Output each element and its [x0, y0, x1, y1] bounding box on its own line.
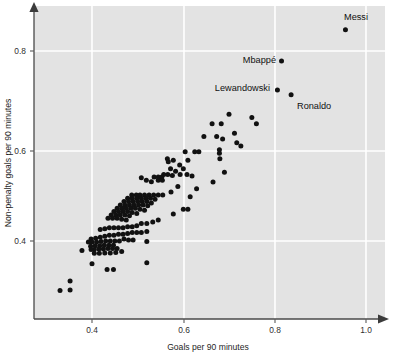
- data-point: [139, 175, 144, 180]
- data-point: [144, 239, 149, 244]
- data-point: [144, 229, 149, 234]
- y-axis-title: Non-penalty goals per 90 minutes: [3, 99, 13, 228]
- data-point: [110, 216, 115, 221]
- data-point: [156, 218, 161, 223]
- data-point: [103, 239, 108, 244]
- data-point: [102, 234, 107, 239]
- data-point: [219, 121, 224, 126]
- data-point: [111, 225, 116, 230]
- data-point: [194, 186, 199, 191]
- data-point: [137, 207, 142, 212]
- data-point: [107, 233, 112, 238]
- data-point: [201, 134, 206, 139]
- data-point: [275, 87, 280, 92]
- data-point: [210, 121, 215, 126]
- data-point: [105, 216, 110, 221]
- data-point: [116, 232, 121, 237]
- xtick-label-2: 0.8: [269, 325, 281, 335]
- data-point: [178, 172, 183, 177]
- point-label-mbappe: Mbappé: [243, 55, 276, 65]
- data-point: [107, 225, 112, 230]
- data-point: [133, 206, 138, 211]
- data-point: [97, 251, 102, 256]
- data-point: [122, 212, 127, 217]
- data-point: [156, 192, 161, 197]
- data-point: [124, 218, 129, 223]
- data-point: [139, 230, 144, 235]
- plot-background: [34, 6, 385, 319]
- point-label-messi: Messi: [344, 12, 368, 22]
- data-point: [68, 278, 73, 283]
- data-point: [169, 190, 174, 195]
- data-point: [113, 250, 118, 255]
- data-point: [111, 267, 116, 272]
- ytick-label-2: 0.8: [14, 46, 26, 56]
- data-point: [119, 249, 124, 254]
- data-point: [142, 208, 147, 213]
- x-axis-title: Goals per 90 minutes: [167, 342, 249, 352]
- data-point: [125, 231, 130, 236]
- data-point: [102, 250, 107, 255]
- data-point: [165, 172, 170, 177]
- data-point: [150, 220, 155, 225]
- data-point: [232, 131, 237, 136]
- data-point: [166, 159, 171, 164]
- data-point: [249, 115, 254, 120]
- data-point: [134, 211, 139, 216]
- data-point: [160, 192, 165, 197]
- data-point: [144, 178, 149, 183]
- data-point: [254, 121, 259, 126]
- point-label-ronaldo: Ronaldo: [297, 101, 331, 111]
- data-point: [105, 267, 110, 272]
- data-point: [149, 179, 154, 184]
- data-point: [196, 149, 201, 154]
- data-point: [153, 197, 158, 202]
- data-point: [141, 202, 146, 207]
- data-point: [68, 287, 73, 292]
- data-point: [175, 184, 180, 189]
- ytick-label-0: 0.4: [14, 236, 26, 246]
- data-point: [289, 92, 294, 97]
- data-point: [119, 217, 124, 222]
- point-label-lewandowski: Lewandowski: [215, 83, 270, 93]
- data-point: [220, 136, 225, 141]
- data-point: [130, 230, 135, 235]
- data-point: [211, 180, 216, 185]
- data-point: [117, 239, 122, 244]
- data-point: [185, 207, 190, 212]
- data-point: [115, 216, 120, 221]
- data-point: [98, 235, 103, 240]
- data-point: [112, 239, 117, 244]
- data-point: [222, 170, 227, 175]
- data-point: [130, 224, 135, 229]
- data-point: [217, 156, 222, 161]
- data-point: [134, 223, 139, 228]
- data-point: [92, 251, 97, 256]
- data-point: [238, 144, 243, 149]
- data-point: [105, 246, 110, 251]
- data-point: [79, 248, 84, 253]
- data-point: [145, 203, 150, 208]
- data-point: [110, 246, 115, 251]
- data-point: [121, 232, 126, 237]
- data-point: [184, 172, 189, 177]
- data-point: [131, 238, 136, 243]
- ytick-label-1: 0.6: [14, 146, 26, 156]
- data-point: [89, 247, 94, 252]
- data-point: [90, 261, 95, 266]
- data-point: [96, 247, 101, 252]
- data-point: [177, 163, 182, 168]
- data-point: [139, 221, 144, 226]
- plot-svg: Messi Mbappé Lewandowski Ronaldo 0.4 0.6: [0, 0, 398, 359]
- data-point: [227, 112, 232, 117]
- data-point: [86, 239, 91, 244]
- xtick-label-3: 1.0: [360, 325, 372, 335]
- data-point: [190, 173, 195, 178]
- data-point: [234, 140, 239, 145]
- data-point: [134, 230, 139, 235]
- data-point: [170, 173, 175, 178]
- data-point: [98, 227, 103, 232]
- xtick-label-1: 0.6: [178, 325, 190, 335]
- data-point: [185, 158, 190, 163]
- data-point: [121, 225, 126, 230]
